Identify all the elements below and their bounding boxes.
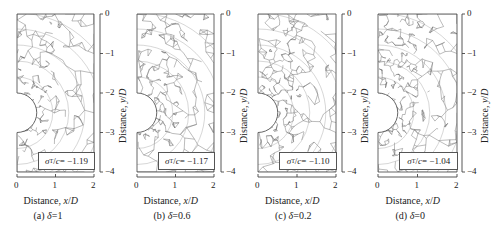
x-tick-label: 2 <box>454 180 459 190</box>
plot-boundary <box>378 14 457 172</box>
x-tick-label: 1 <box>415 180 420 190</box>
x-axis-label: Distance, x/D <box>386 195 440 206</box>
mesh-lines <box>378 14 457 172</box>
y-axis <box>462 14 465 172</box>
stress-value-legend: σT/c= −1.04 <box>399 152 458 170</box>
y-axis-label: Distance, y/D <box>479 88 490 142</box>
y-tick-label: −1 <box>467 48 477 58</box>
y-tick-label: −4 <box>467 166 477 176</box>
y-tick-label: −2 <box>467 87 477 97</box>
x-axis <box>378 174 457 177</box>
y-tick-label: −3 <box>467 127 477 137</box>
x-tick-label: 0 <box>375 180 380 190</box>
panel-caption: (d) δ=0 <box>396 210 425 221</box>
y-tick-label: 0 <box>467 8 472 18</box>
